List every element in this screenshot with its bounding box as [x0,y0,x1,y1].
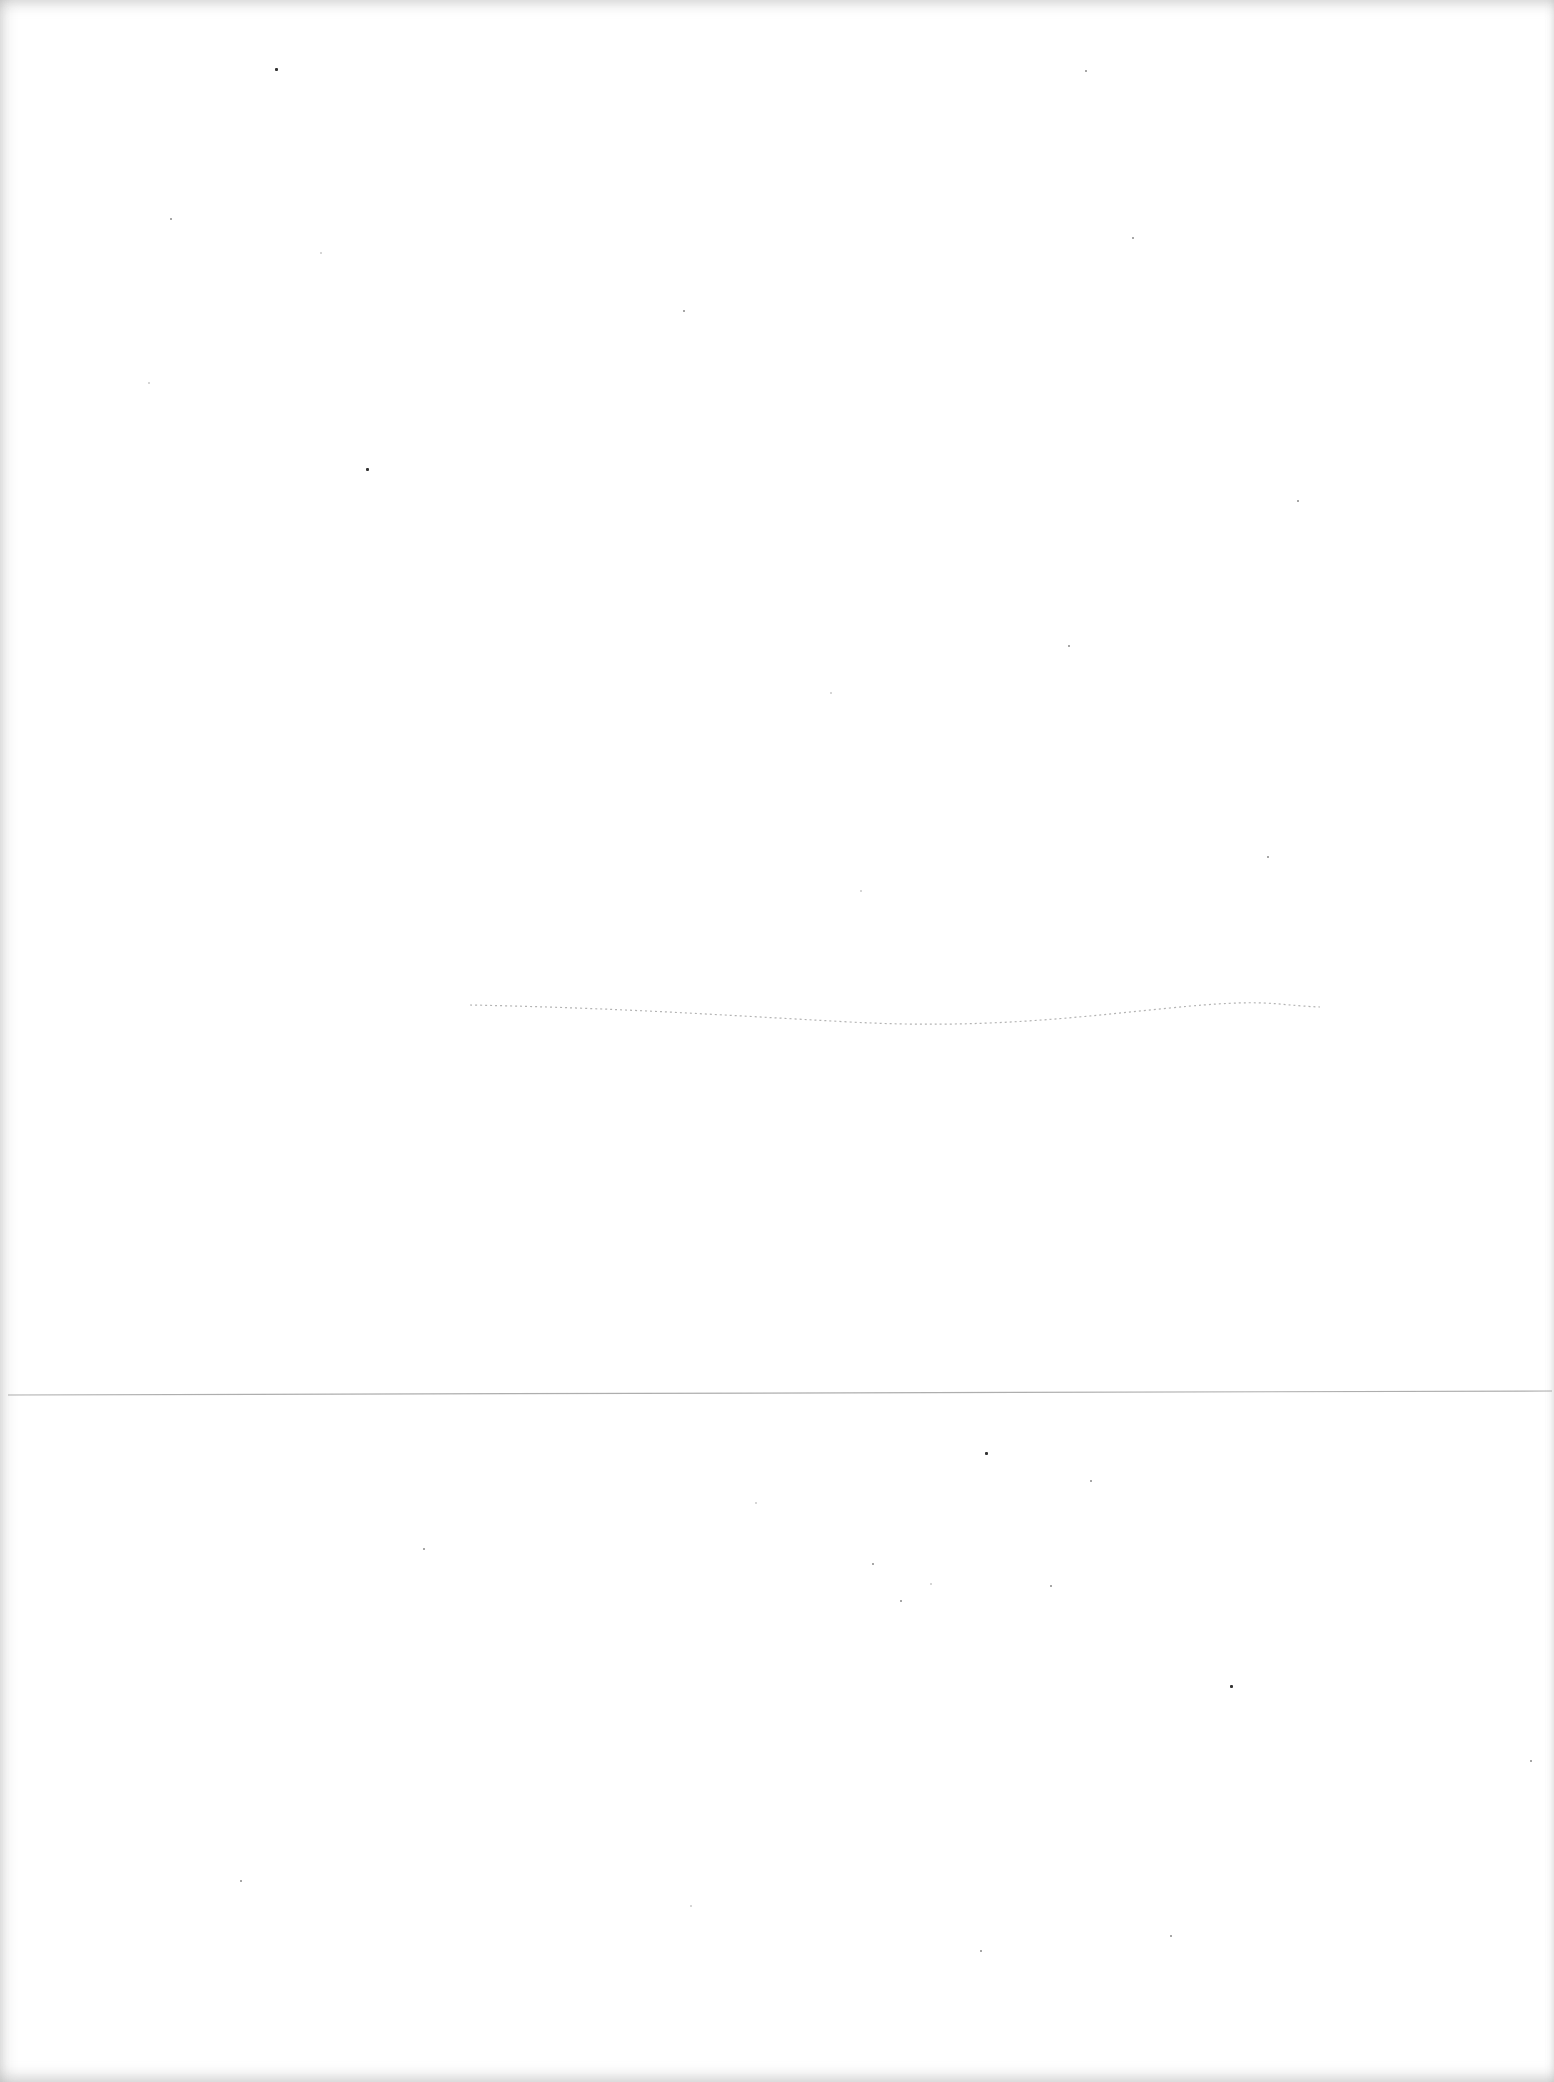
faint-curve-mark [470,990,1320,1030]
scan-edge-shadow [0,0,1554,2082]
scan-speck [1068,645,1070,647]
scan-speck [240,1880,242,1882]
scan-speck [170,218,172,220]
scan-speck [683,310,685,312]
scan-speck [900,1600,902,1602]
scan-speck [1132,237,1134,239]
scan-speck [1297,500,1299,502]
scan-speck [930,1583,932,1585]
scan-speck [985,1452,988,1455]
scan-speck [1530,1760,1532,1762]
scan-speck [366,468,369,471]
scan-speck [275,68,278,71]
scan-speck [690,1905,692,1907]
scan-speck [860,890,862,892]
scan-speck [830,692,832,694]
scan-speck [1050,1585,1052,1587]
fold-line [8,1388,1552,1398]
scan-speck [1230,1685,1233,1688]
scan-speck [1085,70,1087,72]
scan-speck [1170,1935,1172,1937]
scan-speck [320,252,322,254]
scan-speck [1267,856,1269,858]
scan-speck [1090,1480,1092,1482]
scan-speck [423,1548,425,1550]
scan-speck [148,382,150,384]
scan-speck [872,1563,874,1565]
scan-speck [755,1502,757,1504]
scanned-page [0,0,1554,2082]
scan-speck [980,1950,982,1952]
